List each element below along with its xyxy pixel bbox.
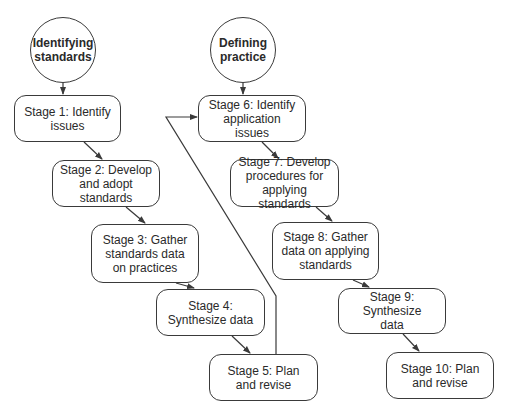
arrow-stage3-to-stage4 [176, 283, 194, 288]
stage-10-node: Stage 10: Plan and revise [386, 352, 494, 399]
arrow-stage4-to-stage5 [232, 336, 250, 353]
stage-4-node: Stage 4: Synthesize data [156, 289, 265, 336]
stage-label: Stage 5: Plan and revise [219, 364, 309, 392]
arrow-stage2-to-stage3 [126, 207, 145, 223]
stage-label: Stage 9: Synthesize data [352, 290, 432, 332]
stage-9-node: Stage 9: Synthesize data [338, 288, 446, 334]
stage-7-node: Stage 7: Develop procedures for applying… [230, 159, 339, 207]
stage-5-node: Stage 5: Plan and revise [209, 354, 318, 401]
start-node-label: Identifying standards [31, 36, 95, 64]
start-node-label: Defining practice [216, 36, 270, 64]
stage-1-node: Stage 1: Identify issues [14, 95, 121, 142]
arrow-stage9-to-stage10 [403, 334, 419, 351]
stage-label: Stage 7: Develop procedures for applying… [237, 155, 332, 211]
start-node-defining-practice: Defining practice [210, 17, 276, 83]
stage-8-node: Stage 8: Gather data on applying standar… [272, 222, 379, 280]
stage-label: Stage 1: Identify issues [23, 105, 113, 133]
stage-label: Stage 2: Develop and adopt standards [59, 163, 153, 205]
stage-3-node: Stage 3: Gather standards data on practi… [91, 224, 199, 283]
arrow-stage8-to-stage9 [353, 280, 369, 287]
stage-label: Stage 3: Gather standards data on practi… [98, 233, 192, 275]
stage-6-node: Stage 6: Identify application issues [198, 95, 306, 142]
stage-label: Stage 6: Identify application issues [205, 98, 299, 140]
arrow-stage1-to-stage2 [84, 142, 102, 159]
start-node-identifying-standards: Identifying standards [30, 17, 96, 83]
stage-label: Stage 8: Gather data on applying standar… [281, 230, 371, 272]
stage-label: Stage 4: Synthesize data [163, 299, 258, 327]
stage-label: Stage 10: Plan and revise [393, 362, 487, 390]
stage-2-node: Stage 2: Develop and adopt standards [52, 160, 160, 207]
